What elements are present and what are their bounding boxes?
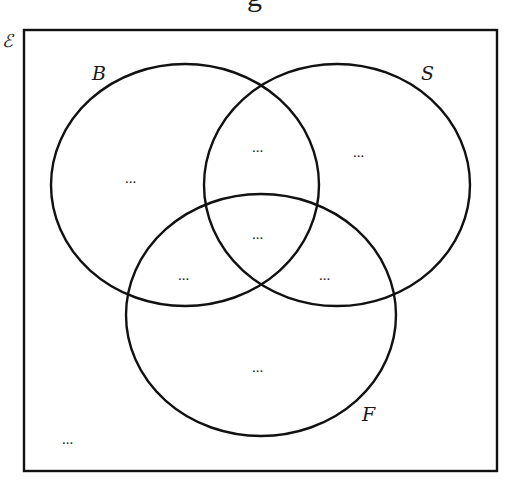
region-s-and-f-only: ... [319,267,330,283]
region-outside: ... [62,431,73,447]
set-s-circle [204,64,470,306]
region-s-only: ... [353,144,364,160]
universal-set-symbol: ℰ [2,30,15,51]
set-f-label: F [361,403,376,425]
cut-off-title: g [247,0,262,12]
region-b-and-f-only: ... [178,267,189,283]
region-f-only: ... [252,359,263,375]
set-b-label: B [91,62,106,84]
venn-diagram: g ℰ B S F ... ... ... ... ... ... ... ..… [0,0,509,483]
region-b-only: ... [125,170,136,186]
region-b-s-f: ... [252,226,263,242]
region-b-and-s-only: ... [252,139,263,155]
set-s-label: S [421,62,434,84]
